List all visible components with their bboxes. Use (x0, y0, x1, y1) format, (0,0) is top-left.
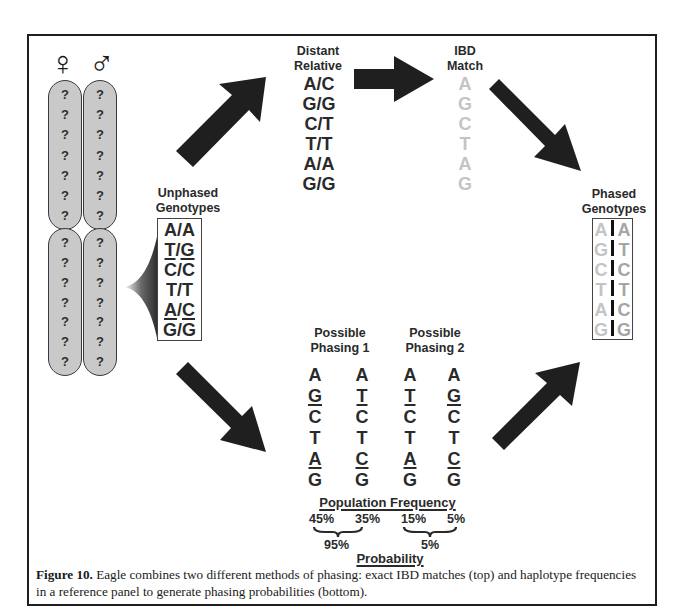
phase-separator-icon (611, 220, 614, 236)
caption-text: Eagle combines two different methods of … (36, 567, 636, 599)
haplotype-allele: G (444, 470, 464, 491)
ibd-match-title: IBD Match (440, 44, 490, 74)
haplotype-allele: T (400, 428, 420, 449)
unknown-allele-marker: ? (61, 355, 69, 368)
haplotype-allele: A (444, 365, 464, 386)
phase-separator-icon (611, 240, 614, 256)
unknown-allele-marker: ? (61, 236, 69, 249)
phased-allele-ibd: A (593, 220, 609, 240)
arrow-down-right-icon (489, 79, 581, 171)
unphased-genotype-row: G/G (158, 320, 201, 340)
haplotype-allele: A (305, 365, 325, 386)
distant-relative-genotype: A/A (288, 154, 350, 174)
allele-b: C (182, 260, 195, 280)
phased-allele-ibd: T (593, 280, 609, 300)
unknown-allele-marker: ? (61, 128, 69, 141)
haplotype-allele: C (352, 449, 372, 470)
phased-allele-ibd: G (593, 320, 609, 340)
ibd-allele: C (455, 114, 475, 134)
unknown-allele-marker: ? (96, 108, 104, 121)
ibd-allele: G (455, 174, 475, 194)
unphased-genotype-row: A/A (158, 220, 201, 240)
brace-phasing-2-icon (403, 525, 457, 539)
distant-relative-title: Distant Relative (285, 44, 351, 74)
distant-relative-genotype: C/T (288, 114, 350, 134)
unknown-allele-marker: ? (61, 209, 69, 222)
haplotype-allele: G (352, 470, 372, 491)
maternal-chromosome-segment: ??????? (48, 228, 82, 376)
haplotype-allele: T (444, 428, 464, 449)
unknown-allele-marker: ? (96, 236, 104, 249)
allele-a: A (164, 220, 177, 240)
phasing-2-haplotype-2: AGCTCG (444, 365, 464, 491)
phasing-2-probability: 5% (421, 538, 439, 552)
allele-a: G (163, 320, 177, 340)
unphased-genotype-row: T/T (158, 280, 201, 300)
haplotype-allele: A (400, 365, 420, 386)
unknown-allele-marker: ? (61, 315, 69, 328)
distant-relative-genotype: G/G (288, 174, 350, 194)
haplotype-allele: C (444, 407, 464, 428)
haplotype-allele: A (305, 449, 325, 470)
phasing-2-hap2-frequency: 5% (447, 512, 465, 526)
phased-allele-frequency: T (616, 240, 632, 260)
allele-b: G (182, 320, 196, 340)
phase-separator-icon (611, 320, 614, 336)
unknown-allele-marker: ? (61, 256, 69, 269)
haplotype-allele: A (352, 365, 372, 386)
allele-b: A (182, 220, 195, 240)
distant-relative-genotype: A/C (288, 74, 350, 94)
arrow-up-right-lower-icon (492, 362, 580, 450)
phased-allele-ibd: C (593, 260, 609, 280)
haplotype-allele: C (400, 407, 420, 428)
wedge-connector-icon (122, 232, 162, 342)
unphased-genotype-row: A/C (158, 300, 201, 320)
phased-genotype-row: GG (593, 320, 632, 340)
unknown-allele-marker: ? (61, 169, 69, 182)
haplotype-allele: C (352, 407, 372, 428)
phased-genotype-row: TT (593, 280, 632, 300)
unknown-allele-marker: ? (96, 276, 104, 289)
unknown-allele-marker: ? (61, 296, 69, 309)
phased-genotypes-box: AAGTCCTTACGG (592, 218, 633, 340)
ibd-match-alleles: AGCTAG (455, 74, 475, 194)
male-symbol-icon: ♂ (89, 46, 115, 80)
phasing-1-haplotype-2: ATCTCG (352, 365, 372, 491)
unknown-allele-marker: ? (96, 315, 104, 328)
distant-relative-genotype: T/T (288, 134, 350, 154)
phasing-2-title: Possible Phasing 2 (395, 326, 475, 356)
phased-allele-frequency: G (616, 320, 632, 340)
unknown-allele-marker: ? (61, 189, 69, 202)
haplotype-allele: T (352, 428, 372, 449)
haplotype-allele: C (444, 449, 464, 470)
haplotype-allele: C (305, 407, 325, 428)
allele-a: T (166, 280, 177, 300)
allele-a: T (164, 240, 175, 260)
unknown-allele-marker: ? (61, 276, 69, 289)
unknown-allele-marker: ? (96, 355, 104, 368)
ibd-allele: A (455, 74, 475, 94)
unphased-genotypes-box: A/AT/GC/CT/TA/CG/G (157, 218, 202, 341)
haplotype-allele: T (352, 386, 372, 407)
unphased-title: Unphased Genotypes (142, 186, 234, 216)
unknown-allele-marker: ? (96, 256, 104, 269)
allele-b: T (182, 280, 193, 300)
allele-b: C (182, 300, 195, 320)
phasing-1-probability: 95% (324, 538, 349, 552)
figure-caption: Figure 10. Eagle combines two different … (36, 566, 648, 600)
unphased-genotype-row: C/C (158, 260, 201, 280)
phased-allele-ibd: G (593, 240, 609, 260)
unknown-allele-marker: ? (96, 149, 104, 162)
arrow-down-right-lower-icon (176, 362, 266, 452)
caption-label: Figure 10. (36, 567, 93, 582)
phase-separator-icon (611, 300, 614, 316)
phased-allele-frequency: A (616, 220, 632, 240)
female-symbol-icon: ♀ (50, 46, 76, 80)
paternal-chromosome-segment: ??????? (83, 228, 117, 376)
unknown-allele-marker: ? (96, 335, 104, 348)
unknown-allele-marker: ? (96, 209, 104, 222)
probability-label: Probability (340, 551, 440, 566)
haplotype-allele: G (444, 386, 464, 407)
arrow-right-icon (354, 56, 434, 102)
allele-a: A (164, 300, 177, 320)
